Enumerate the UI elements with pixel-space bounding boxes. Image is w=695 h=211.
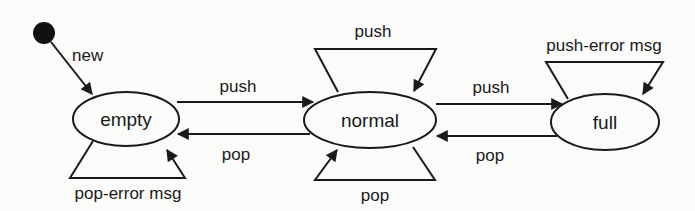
edge-normal-to-empty: pop [178,134,310,164]
edge-full-to-normal: pop [437,136,557,165]
edge-label-pop-error-msg: pop-error msg [75,184,182,203]
edge-label-push-to-full: push [473,78,510,97]
edge-label-new: new [72,46,104,65]
initial-state-dot [33,22,55,44]
edge-label-pop-from-full: pop [476,146,504,165]
edge-normal-self-loop-top: push [315,22,436,92]
diagram-svg: new empty normal full push pop [0,0,695,211]
edge-label-push: push [220,77,257,96]
state-full: full [551,94,659,150]
edge-label-pop-loop: pop [361,186,389,205]
edge-normal-self-loop-bottom: pop [315,147,435,205]
state-full-label: full [593,112,617,133]
state-normal-label: normal [341,110,399,131]
edge-initial-to-empty: new [51,42,104,94]
edge-line [315,147,435,180]
edge-label-push-loop: push [355,22,392,41]
state-empty-label: empty [100,109,152,130]
edge-label-pop: pop [222,145,250,164]
state-diagram: new empty normal full push pop [0,0,695,211]
state-normal: normal [304,92,436,148]
initial-state-node [33,22,55,44]
edge-empty-self-loop: pop-error msg [70,141,185,203]
edge-empty-to-normal: push [177,77,313,102]
edge-full-self-loop: push-error msg [546,36,663,99]
state-empty: empty [73,92,179,146]
edge-label-push-error-msg: push-error msg [546,36,661,55]
edge-line [315,49,436,92]
edge-normal-to-full: push [436,78,562,104]
